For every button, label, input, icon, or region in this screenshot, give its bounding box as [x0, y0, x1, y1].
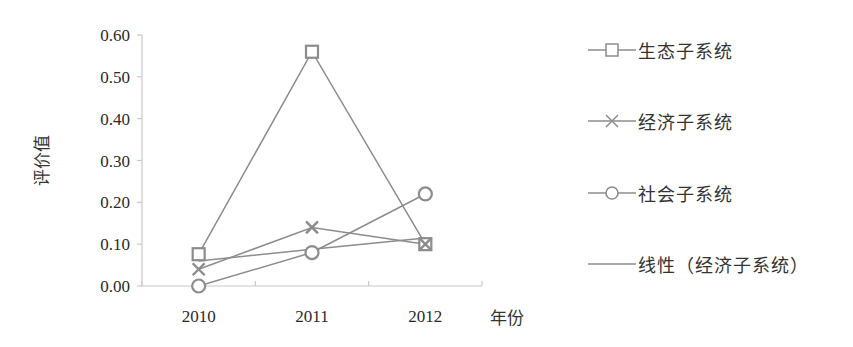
legend-label: 生态子系统 — [638, 37, 733, 63]
series-line — [199, 194, 426, 286]
legend-item-society: 社会子系统 — [588, 181, 733, 205]
legend-label: 线性（经济子系统） — [638, 251, 809, 277]
x-axis-title: 年份 — [490, 308, 524, 328]
y-tick-label: 0.40 — [100, 110, 130, 129]
legend-label: 经济子系统 — [638, 108, 733, 134]
series-line — [199, 52, 426, 254]
circle-marker-icon — [588, 183, 636, 203]
legend-item-trendline: 线性（经济子系统） — [588, 252, 809, 276]
legend-item-economy: 经济子系统 — [588, 109, 733, 133]
y-tick-label: 0.20 — [100, 193, 130, 212]
series-2 — [199, 194, 426, 286]
legend-item-ecology: 生态子系统 — [588, 38, 733, 62]
square-marker-icon — [588, 40, 636, 60]
y-tick-label: 0.30 — [100, 152, 130, 171]
x-tick-label: 2011 — [295, 307, 328, 326]
x-tick-label: 2010 — [182, 307, 216, 326]
y-tick-label: 0.60 — [100, 26, 130, 45]
x-marker-icon — [193, 263, 205, 275]
legend-label: 社会子系统 — [638, 180, 733, 206]
series-group — [192, 46, 432, 293]
square-marker-icon — [193, 248, 205, 260]
square-marker-icon — [306, 46, 318, 58]
circle-marker-icon — [306, 246, 319, 259]
y-tick-label: 0.10 — [100, 235, 130, 254]
y-tick-label: 0.00 — [100, 277, 130, 296]
x-marker-icon — [588, 111, 636, 131]
line-icon — [588, 254, 636, 274]
circle-marker-icon — [419, 187, 432, 200]
axes: 0.000.100.200.300.400.500.60201020112012 — [100, 26, 482, 326]
y-axis-title: 评价值 — [32, 135, 52, 186]
y-tick-label: 0.50 — [100, 68, 130, 87]
series-0 — [199, 52, 426, 254]
x-tick-label: 2012 — [408, 307, 442, 326]
circle-marker-icon — [192, 280, 205, 293]
